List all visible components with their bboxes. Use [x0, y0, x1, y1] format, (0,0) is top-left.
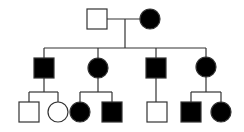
- affected-male-symbol: [181, 102, 201, 122]
- affected-female-symbol: [211, 102, 231, 122]
- affected-female-symbol: [140, 9, 160, 29]
- affected-female-symbol: [88, 58, 108, 78]
- affected-female-symbol: [70, 102, 90, 122]
- affected-male-symbol: [34, 58, 54, 78]
- connector-lines: [29, 19, 221, 102]
- unaffected-male-symbol: [87, 9, 107, 29]
- unaffected-male-symbol: [19, 102, 39, 122]
- affected-male-symbol: [102, 102, 122, 122]
- affected-male-symbol: [146, 58, 166, 78]
- pedigree-diagram: [0, 0, 244, 132]
- unaffected-male-symbol: [147, 102, 167, 122]
- affected-female-symbol: [196, 57, 216, 77]
- unaffected-female-symbol: [48, 102, 68, 122]
- pedigree-svg: [0, 0, 244, 132]
